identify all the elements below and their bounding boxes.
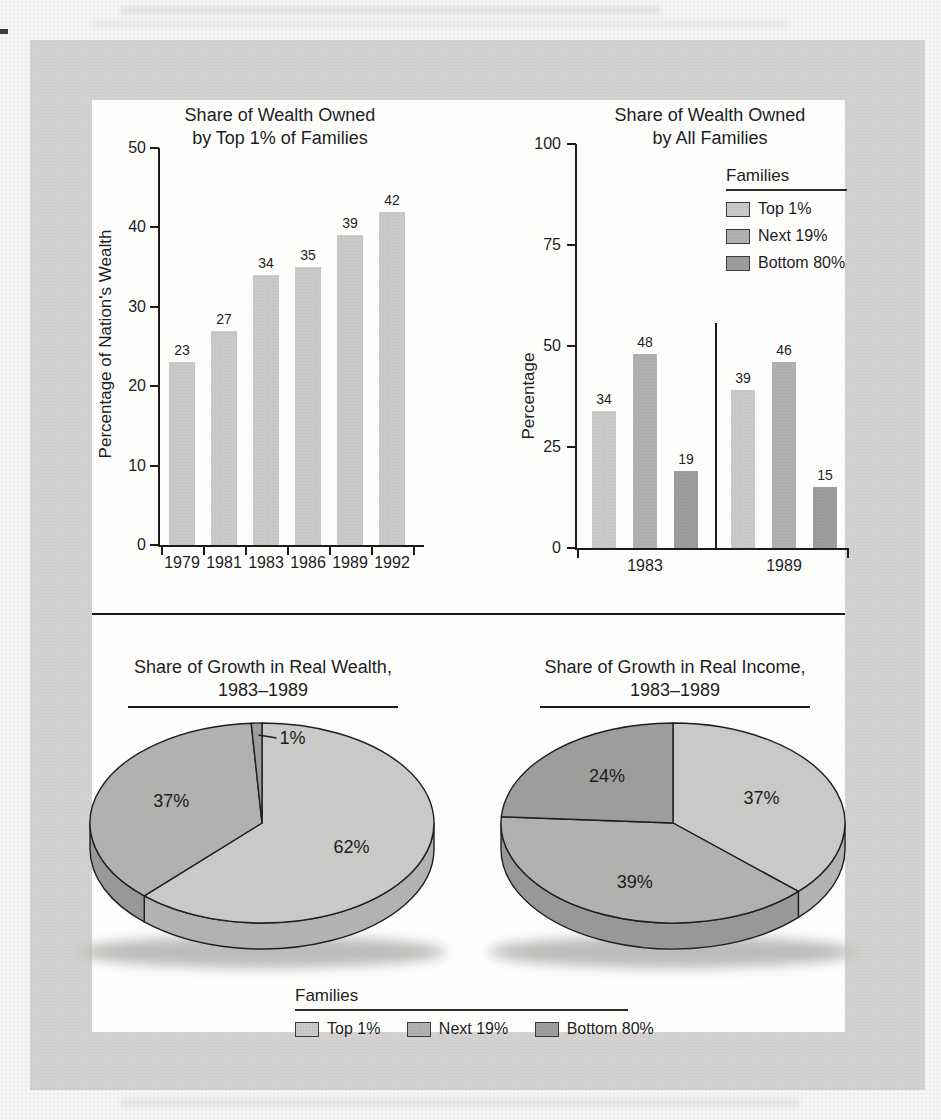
group-divider-line [715,323,717,548]
legend-item-next19: Next 19% [726,227,847,245]
x-axis-category-label: 1989 [754,557,814,575]
scan-artifact [0,29,8,34]
bar-value-label: 35 [286,247,330,263]
bar-value-label: 19 [664,451,708,467]
legend-title: Families [726,166,847,186]
y-axis-tick-label: 100 [521,135,561,153]
page-bleed-text [120,1098,800,1107]
bar-1979 [169,362,195,545]
legend-title: Families [295,986,635,1006]
bottom80-swatch [726,256,750,271]
y-axis-tick-label: 0 [106,536,146,554]
top1-swatch [295,1022,319,1037]
top1-swatch [726,202,750,217]
figure-box: Share of Wealth Owned by Top 1% of Famil… [92,100,845,1032]
legend-item-label: Next 19% [439,1020,508,1038]
pie-slice-bottom80 [501,723,673,823]
bar-value-label: 42 [370,192,414,208]
y-axis-tick [150,385,159,387]
y-axis-tick-label: 0 [521,539,561,557]
chart-title-line2: 1983–1989 [128,679,398,702]
pie-slice-label-next19: 39% [617,872,653,892]
pie-slice-label-next19: 37% [153,791,189,811]
bar-value-label: 34 [244,255,288,271]
y-axis-tick [567,244,576,246]
y-axis-tick [150,465,159,467]
legend-item-bottom80: Bottom 80% [535,1020,654,1038]
chart-title-line1: Share of Growth in Real Income, [540,656,810,679]
y-axis-tick-label: 20 [106,377,146,395]
bar-chart-top1-title: Share of Wealth Owned by Top 1% of Famil… [148,104,412,150]
y-axis-tick [567,345,576,347]
pie-wealth-title-rule [128,706,398,708]
legend-rule [726,189,847,191]
legend-item-top1: Top 1% [295,1020,380,1038]
chart-title-line2: by Top 1% of Families [148,127,412,150]
y-axis-tick [150,544,159,546]
figure-panel: Share of Wealth Owned by Top 1% of Famil… [30,40,925,1090]
y-axis-tick [567,446,576,448]
section-divider-line [92,613,845,615]
chart-title-line2: 1983–1989 [540,679,810,702]
x-axis-tick [847,550,849,558]
bar-chart-top1-plot: 0102030405023197927198134198335198639198… [158,148,424,547]
legend-item-label: Bottom 80% [758,254,845,272]
y-axis-tick [150,306,159,308]
bar-value-label: 46 [762,342,806,358]
bar-1989-bottom80 [813,487,837,548]
page-bleed-text [90,20,790,28]
y-axis-tick-label: 25 [521,438,561,456]
families-legend-bottom: Families Top 1% Next 19% Bottom 80% [295,986,635,1041]
x-axis-tick [577,550,579,558]
pie-slice-label-top1: 62% [334,837,370,857]
legend-rule [295,1009,628,1011]
bottom80-swatch [535,1022,559,1037]
y-axis-tick [150,147,159,149]
bar-1983-top1 [592,411,616,548]
bar-value-label: 39 [328,215,372,231]
y-axis-tick-label: 75 [521,236,561,254]
pie-wealth-title: Share of Growth in Real Wealth, 1983–198… [128,656,398,702]
bar-value-label: 48 [623,334,667,350]
bar-1989-next19 [772,362,796,548]
bar-1989-top1 [731,390,755,548]
y-axis-tick-label: 10 [106,457,146,475]
pie-slice-label-bottom80: 24% [589,766,625,786]
x-axis-category-label: 1983 [615,557,675,575]
x-axis-category-label: 1992 [362,554,422,572]
bar-value-label: 23 [160,342,204,358]
pie-income-title-rule [540,706,810,708]
bar-1992 [379,212,405,545]
bar-1983 [253,275,279,545]
bar-1983-bottom80 [674,471,698,548]
legend-item-label: Top 1% [327,1020,380,1038]
bar-value-label: 27 [202,311,246,327]
scanned-book-page: Share of Wealth Owned by Top 1% of Famil… [0,0,941,1120]
bar-1989 [337,235,363,545]
bar-1981 [211,331,237,545]
legend-item-label: Next 19% [758,227,827,245]
page-bleed-text [120,6,660,15]
bar-1983-next19 [633,354,657,548]
y-axis-tick-label: 50 [106,139,146,157]
legend-item-next19: Next 19% [407,1020,508,1038]
pie-income-title: Share of Growth in Real Income, 1983–198… [540,656,810,702]
pie-chart-real-wealth: 62%37%1% [82,720,442,950]
chart-title-line1: Share of Wealth Owned [570,104,850,127]
next19-swatch [726,229,750,244]
y-axis-tick-label: 50 [521,337,561,355]
bar-value-label: 15 [803,467,847,483]
y-axis-tick-label: 40 [106,218,146,236]
bar-1986 [295,267,321,545]
pie-slice-label-top1: 37% [743,788,779,808]
legend-item-label: Bottom 80% [567,1020,654,1038]
chart-title-line1: Share of Wealth Owned [148,104,412,127]
legend-item-label: Top 1% [758,200,811,218]
pie-slice-label-bottom80: 1% [280,728,306,748]
legend-item-bottom80: Bottom 80% [726,254,847,272]
pie-chart-real-income: 37%39%24% [493,720,853,950]
chart-title-line1: Share of Growth in Real Wealth, [128,656,398,679]
families-legend: Families Top 1% Next 19% Bottom 80% [726,166,847,281]
y-axis-tick-label: 30 [106,298,146,316]
bar-value-label: 39 [721,370,765,386]
